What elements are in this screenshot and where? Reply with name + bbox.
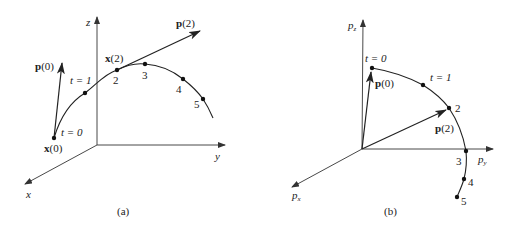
- label-b-p0: p(0): [375, 77, 394, 90]
- px-axis: [292, 149, 362, 187]
- label-b-5: 5: [461, 195, 467, 207]
- label-4: 4: [176, 83, 182, 95]
- pz-axis: [362, 20, 363, 149]
- label-x2: x(2): [105, 52, 124, 65]
- vector-p0-b: [362, 72, 371, 149]
- caption-b: (b): [384, 205, 397, 218]
- panel-b: pz py px t = 0 t = 1 2 3 4 5 p(0) p(2) (…: [291, 19, 493, 218]
- point-t4: [181, 77, 185, 81]
- z-axis-label: z: [85, 16, 91, 28]
- point-b-t5: [455, 195, 459, 199]
- label-t0: t = 0: [61, 126, 83, 138]
- point-b-t2: [447, 106, 451, 110]
- label-b-t0: t = 0: [365, 52, 387, 64]
- label-5: 5: [194, 98, 200, 110]
- point-b-t1: [421, 83, 425, 87]
- vector-p2-b: [362, 110, 446, 149]
- point-b-t4: [462, 177, 466, 181]
- label-b-3: 3: [456, 155, 462, 167]
- label-3: 3: [142, 69, 148, 81]
- vector-p2: [117, 31, 200, 70]
- point-t1: [83, 91, 87, 95]
- label-t1: t = 1: [70, 74, 91, 86]
- label-x0: x(0): [44, 142, 63, 155]
- px-axis-label: px: [291, 189, 302, 203]
- label-b-2: 2: [455, 102, 461, 114]
- x-axis-label: x: [25, 188, 31, 200]
- point-t2: [115, 68, 119, 72]
- figure-canvas: z y x p(0) p(2) x(0) x(2) t = 0 t = 1 2 …: [0, 0, 510, 234]
- pz-axis-label: pz: [347, 19, 357, 33]
- label-p0: p(0): [35, 60, 54, 73]
- label-b-t1: t = 1: [430, 71, 451, 83]
- point-t0: [52, 136, 56, 140]
- caption-a: (a): [117, 205, 130, 218]
- point-b-t0: [370, 66, 374, 70]
- point-b-t3: [464, 149, 468, 153]
- label-2: 2: [113, 74, 119, 86]
- label-p2: p(2): [176, 17, 195, 30]
- label-b-p2: p(2): [435, 122, 454, 135]
- py-axis-label: py: [477, 153, 488, 167]
- y-axis-label: y: [214, 150, 220, 162]
- point-t3: [143, 62, 147, 66]
- label-b-4: 4: [468, 176, 474, 188]
- panel-a: z y x p(0) p(2) x(0) x(2) t = 0 t = 1 2 …: [25, 16, 225, 218]
- point-t5: [201, 97, 205, 101]
